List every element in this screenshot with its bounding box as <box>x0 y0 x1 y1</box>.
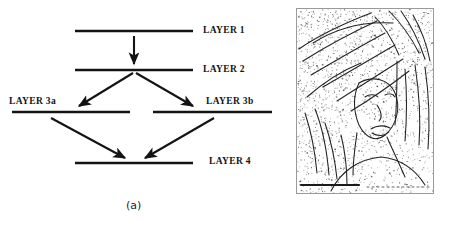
layer-2-label: LAYER 2 <box>203 65 245 75</box>
layer-4-label: LAYER 4 <box>209 157 251 167</box>
arrow-layer2-to-layer3b <box>136 73 193 106</box>
layer-1-label: LAYER 1 <box>203 26 245 36</box>
arrow-layer3a-to-layer4 <box>51 118 125 158</box>
arrow-layer3b-to-layer4 <box>145 118 214 158</box>
edge-image-svg <box>297 9 433 193</box>
arrow-layer2-to-layer3a <box>79 73 133 106</box>
edge-image-frame <box>296 8 434 194</box>
layer-3a-label: LAYER 3a <box>9 97 56 107</box>
panel-a-layer-diagram: LAYER 1 LAYER 2 LAYER 3a LAYER 3b LAYER … <box>0 0 285 226</box>
layer-3b-label: LAYER 3b <box>206 97 254 107</box>
panel-b-edge-image: (b) <box>285 0 455 226</box>
layer-arrows <box>51 36 214 158</box>
panel-a-caption: (a) <box>126 200 141 211</box>
figure-root: LAYER 1 LAYER 2 LAYER 3a LAYER 3b LAYER … <box>0 0 455 226</box>
